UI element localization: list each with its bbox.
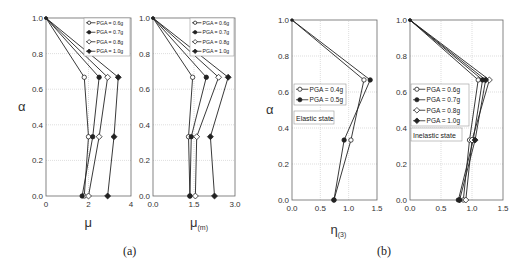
open-circle-marker [362, 78, 366, 82]
y-tick-label: 0.4 [139, 121, 151, 130]
x-tick-label: 1.5 [497, 204, 509, 213]
filled-diamond-marker [105, 193, 111, 199]
open-diamond-marker [86, 193, 92, 199]
y-tick-label: 0.8 [278, 52, 290, 61]
x-tick-label: 0.5 [315, 204, 327, 213]
filled-circle-marker [342, 138, 346, 142]
chart-a2: 0.00.20.40.60.81.00.01.53.0μ(m)PGA = 0.6… [139, 14, 241, 232]
filled-diamond-marker [111, 134, 117, 140]
legend-entry: PGA = 0.7g [96, 29, 123, 35]
filled-circle-marker [332, 198, 336, 202]
charts-canvas: 0.00.20.40.60.81.0024αμPGA = 0.6gPGA = 0… [0, 0, 520, 275]
open-circle-marker [298, 87, 302, 91]
caption-b: (b) [377, 244, 391, 259]
y-tick-label: 0.2 [278, 160, 290, 169]
y-tick-label: 0.2 [139, 156, 151, 165]
y-tick-label: 0.8 [32, 50, 44, 59]
filled-circle-marker [415, 98, 419, 102]
filled-circle-marker [80, 194, 84, 198]
filled-circle-marker [188, 194, 192, 198]
y-tick-label: 0.2 [32, 156, 44, 165]
legend-entry: PGA = 0.4g [310, 86, 344, 94]
y-tick-label: 1.0 [278, 16, 290, 25]
legend: PGA = 0.6gPGA = 0.7gPGA = 0.8gPGA = 1.0g [411, 84, 469, 126]
y-tick-label: 0.6 [139, 85, 151, 94]
chart-b1: 0.00.20.40.60.81.00.00.51.01.5αη(3)PGA =… [266, 16, 383, 239]
x-tick-label: 1.5 [371, 204, 383, 213]
open-circle-marker [82, 75, 86, 79]
y-tick-label: 1.0 [396, 16, 408, 25]
legend-entry: PGA = 0.8g [427, 107, 461, 115]
x-tick-label: 1.0 [343, 204, 355, 213]
legend-entry: PGA = 0.8g [202, 39, 229, 45]
y-tick-label: 0.0 [32, 192, 44, 201]
open-circle-marker [349, 138, 353, 142]
open-circle-marker [86, 135, 90, 139]
y-tick-label: 0.6 [396, 88, 408, 97]
x-tick-label: 2 [86, 200, 91, 209]
figure: 0.00.20.40.60.81.0024αμPGA = 0.6gPGA = 0… [0, 0, 520, 275]
x-axis-label: μ(m) [190, 215, 208, 232]
series-pga-0.5g [290, 18, 372, 202]
legend: PGA = 0.6gPGA = 0.7gPGA = 0.8gPGA = 1.0g [190, 18, 234, 56]
y-tick-label: 0.4 [32, 121, 44, 130]
legend-entry: PGA = 0.8g [96, 39, 123, 45]
filled-circle-marker [189, 135, 193, 139]
legend-entry: PGA = 0.5g [310, 96, 344, 104]
open-circle-marker [476, 78, 480, 82]
legend: PGA = 0.4gPGA = 0.5g [294, 84, 346, 105]
filled-circle-marker [298, 98, 302, 102]
filled-circle-marker [193, 31, 196, 34]
filled-circle-marker [368, 78, 372, 82]
y-tick-label: 0.6 [32, 85, 44, 94]
x-tick-label: 0.0 [286, 204, 298, 213]
x-tick-label: 0.5 [435, 204, 447, 213]
legend-entry: PGA = 0.6g [427, 86, 461, 94]
filled-circle-marker [91, 135, 95, 139]
legend-entry: PGA = 1.0g [96, 48, 123, 54]
annotation-text: Elastic state [296, 115, 334, 122]
x-tick-label: 4 [129, 200, 134, 209]
x-tick-label: 3.0 [229, 200, 241, 209]
filled-diamond-marker [207, 134, 213, 140]
series-pga-0.6g [151, 16, 194, 198]
legend: PGA = 0.6gPGA = 0.7gPGA = 0.8gPGA = 1.0g [84, 18, 130, 56]
x-tick-label: 1.5 [188, 200, 200, 209]
x-tick-label: 0 [44, 200, 49, 209]
y-tick-label: 0.2 [396, 160, 408, 169]
filled-circle-marker [97, 75, 101, 79]
legend-entry: PGA = 1.0g [202, 48, 229, 54]
filled-circle-marker [87, 31, 90, 34]
open-diamond-marker [194, 134, 200, 140]
y-tick-label: 0.4 [278, 124, 290, 133]
y-tick-label: 1.0 [32, 14, 44, 23]
y-axis-label: α [18, 99, 26, 114]
legend-entry: PGA = 1.0g [427, 117, 461, 125]
series-pga-0.4g [290, 18, 366, 202]
plot-frame [292, 20, 377, 200]
x-axis-label: η(3) [331, 222, 347, 239]
filled-circle-marker [204, 75, 208, 79]
caption-a: (a) [123, 244, 136, 259]
x-tick-label: 0.0 [147, 200, 159, 209]
legend-entry: PGA = 0.7g [427, 96, 461, 104]
y-tick-label: 0.4 [396, 124, 408, 133]
y-tick-label: 0.6 [278, 88, 290, 97]
x-tick-label: 0.0 [404, 204, 416, 213]
y-tick-label: 0.8 [139, 50, 151, 59]
x-tick-label: 1.0 [466, 204, 478, 213]
chart-b2: 0.00.20.40.60.81.00.00.51.01.5PGA = 0.6g… [396, 16, 509, 213]
grid [292, 20, 377, 200]
open-circle-marker [190, 75, 194, 79]
y-tick-label: 1.0 [139, 14, 151, 23]
filled-diamond-marker [212, 193, 218, 199]
open-diamond-marker [192, 193, 198, 199]
legend-entry: PGA = 0.6g [96, 20, 123, 26]
open-circle-marker [193, 21, 196, 24]
y-tick-label: 0.8 [396, 52, 408, 61]
y-axis-label: α [266, 102, 274, 117]
open-circle-marker [415, 87, 419, 91]
open-circle-marker [87, 21, 90, 24]
open-diamond-marker [96, 134, 102, 140]
x-axis-label: μ [85, 215, 93, 230]
